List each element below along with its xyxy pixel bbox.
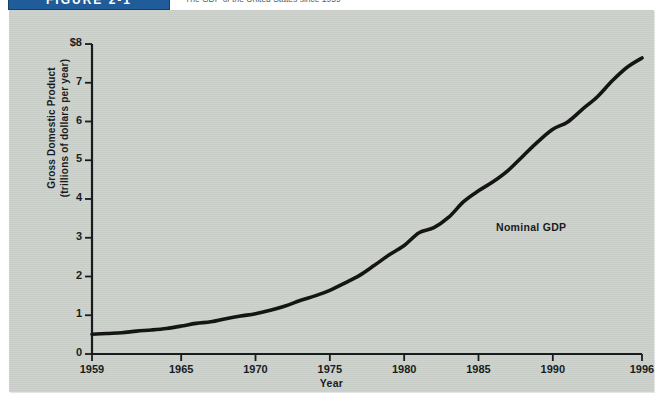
chart-panel: Gross Domestic Product (trillions of dol… xyxy=(9,10,654,392)
x-axis-tick-label: 1970 xyxy=(226,363,286,375)
figure-caption: The GDP of the United States since 1959 xyxy=(185,0,645,7)
y-axis-tick-label: 3 xyxy=(44,230,82,242)
x-axis-tick-label: 1965 xyxy=(151,363,211,375)
gdp-line-chart xyxy=(9,10,654,392)
y-axis-tick-label: 1 xyxy=(44,307,82,319)
y-axis-tick-label: 7 xyxy=(44,75,82,87)
figure-number-banner: FIGURE 2-1 xyxy=(8,0,170,10)
x-axis-tick-label: 1996 xyxy=(612,363,660,375)
x-axis-title: Year xyxy=(9,377,654,389)
x-axis-tick-label: 1975 xyxy=(300,363,360,375)
y-axis-tick-label: $8 xyxy=(44,36,82,48)
y-axis-tick-label: 4 xyxy=(44,191,82,203)
y-axis-tick-label: 2 xyxy=(44,269,82,281)
y-axis-tick-label: 6 xyxy=(44,114,82,126)
y-axis-tick-label: 0 xyxy=(44,346,82,358)
x-axis-tick-label: 1990 xyxy=(523,363,583,375)
y-axis-tick-label: 5 xyxy=(44,152,82,164)
x-axis-tick-label: 1959 xyxy=(62,363,122,375)
x-axis-tick-label: 1985 xyxy=(448,363,508,375)
series-annotation-nominal-gdp: Nominal GDP xyxy=(496,221,566,233)
x-axis-tick-label: 1980 xyxy=(374,363,434,375)
gdp-data-line xyxy=(92,58,642,334)
